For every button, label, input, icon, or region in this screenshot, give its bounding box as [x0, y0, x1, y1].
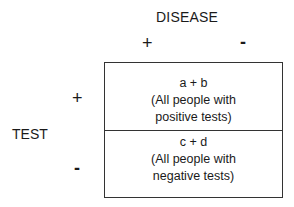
- disease-negative-label: -: [240, 32, 246, 53]
- negative-cell-line1: (All people with: [105, 151, 282, 168]
- positive-cell-formula: a + b: [105, 75, 282, 92]
- test-negative-label: -: [74, 158, 80, 179]
- positive-cell-line1: (All people with: [105, 92, 282, 109]
- test-positive-label: +: [72, 88, 83, 109]
- positive-tests-cell: a + b (All people with positive tests): [105, 63, 282, 131]
- negative-cell-line2: negative tests): [105, 168, 282, 185]
- contingency-box: a + b (All people with positive tests) c…: [104, 62, 283, 198]
- test-axis-title: TEST: [12, 126, 48, 142]
- disease-axis-title: DISEASE: [156, 9, 218, 25]
- negative-cell-formula: c + d: [105, 134, 282, 151]
- negative-tests-cell: c + d (All people with negative tests): [105, 131, 282, 198]
- positive-cell-line2: positive tests): [105, 109, 282, 126]
- disease-positive-label: +: [142, 33, 153, 54]
